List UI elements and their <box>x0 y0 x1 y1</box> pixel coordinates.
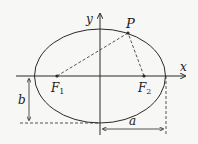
focus1-label: F1 <box>50 81 64 96</box>
focus2-label: F2 <box>137 81 151 96</box>
focus-f1 <box>55 74 58 77</box>
x-axis-label: x <box>180 60 187 74</box>
y-axis-label: y <box>85 12 93 26</box>
focal-line-f1-p <box>57 33 128 76</box>
semi-major-label: a <box>129 114 136 128</box>
ellipse-diagram: x y P F1 F2 b a <box>0 0 198 144</box>
point-p <box>126 31 129 34</box>
semi-minor-label: b <box>18 93 26 107</box>
point-p-label: P <box>125 16 135 31</box>
focus-f2 <box>142 74 145 77</box>
